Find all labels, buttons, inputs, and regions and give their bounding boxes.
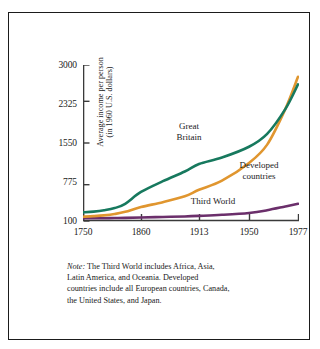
y-axis-title: Average income per person (in 1960 U.S. … <box>96 36 114 168</box>
series-label-developed-line2: countries <box>232 171 286 182</box>
series-label-great-britain-line2: Britain <box>165 132 213 143</box>
plot-area: 3000 2325 1550 775 100 Average income pe… <box>83 65 299 221</box>
chart-note-line4: the United States, and Japan. <box>67 295 297 306</box>
y-tick-label-775: 775 <box>43 177 77 187</box>
y-tick-label-3000: 3000 <box>43 60 77 70</box>
series-label-third-world-text: Third World <box>183 196 243 207</box>
y-tick-label-100: 100 <box>43 216 77 226</box>
chart-note-line2: Latin America, and Oceania. Developed <box>67 272 297 283</box>
y-axis-title-line1: Average income per person <box>96 36 105 168</box>
x-tick-label-1913: 1913 <box>179 227 219 237</box>
series-label-great-britain: Great Britain <box>165 121 213 142</box>
x-tick-label-1950: 1950 <box>229 227 269 237</box>
y-tick-label-2325: 2325 <box>43 99 77 109</box>
chart-note: Note: The Third World includes Africa, A… <box>67 261 297 306</box>
series-label-great-britain-line1: Great <box>165 121 213 132</box>
chart-note-line1-text: The Third World includes Africa, Asia, <box>85 262 214 271</box>
y-axis-title-line2: (in 1960 U.S. dollars) <box>105 36 114 168</box>
chart-note-line3: countries include all European countries… <box>67 283 297 294</box>
x-tick-label-1750: 1750 <box>63 227 103 237</box>
x-tick-label-1860: 1860 <box>121 227 161 237</box>
x-tick-label-1977: 1977 <box>278 227 318 237</box>
chart-note-lead: Note: <box>67 262 85 271</box>
y-tick-label-1550: 1550 <box>43 138 77 148</box>
figure-frame-border: 3000 2325 1550 775 100 Average income pe… <box>8 12 310 340</box>
series-label-developed-line1: Developed <box>232 160 286 171</box>
chart-note-line1: Note: The Third World includes Africa, A… <box>67 261 297 272</box>
series-label-third-world: Third World <box>183 196 243 207</box>
series-label-developed-countries: Developed countries <box>232 160 286 181</box>
figure-container: 3000 2325 1550 775 100 Average income pe… <box>0 0 320 349</box>
